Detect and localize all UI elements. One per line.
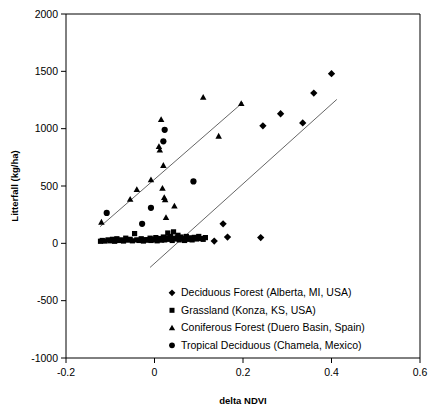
y-tick-label: 1500: [35, 65, 59, 77]
legend-label: Tropical Deciduous (Chamela, Mexico): [181, 339, 362, 351]
data-point-square: [130, 238, 135, 243]
y-tick-label: -500: [37, 294, 58, 306]
x-axis-ticks: -0.200.20.40.6: [57, 358, 427, 378]
x-tick-label: -0.2: [57, 366, 75, 378]
y-axis-ticks: 2000150010005000-500-1000: [31, 8, 66, 364]
data-point-diamond: [257, 234, 264, 241]
data-point-circle: [160, 138, 166, 144]
data-point-diamond: [277, 110, 284, 117]
data-point-square: [203, 235, 208, 240]
legend-label: Coniferous Forest (Duero Basin, Spain): [181, 321, 365, 333]
y-tick-label: 0: [52, 237, 58, 249]
x-axis-title: delta NDVI: [219, 395, 267, 406]
data-point-diamond: [219, 220, 226, 227]
x-tick-label: 0.6: [413, 366, 428, 378]
data-point-triangle: [215, 133, 222, 139]
data-point-diamond: [328, 70, 335, 77]
legend-label: Grassland (Konza, KS, USA): [181, 304, 316, 316]
y-tick-label: 1000: [35, 122, 59, 134]
data-point-triangle: [148, 176, 155, 182]
data-point-triangle: [200, 94, 207, 100]
legend-label: Deciduous Forest (Alberta, MI, USA): [181, 286, 351, 298]
data-point-diamond: [299, 119, 306, 126]
data-point-triangle: [158, 116, 165, 122]
x-tick-label: 0.2: [236, 366, 251, 378]
data-point-circle: [148, 205, 154, 211]
data-point-diamond: [224, 233, 231, 240]
data-point-triangle: [156, 143, 163, 149]
legend-marker-triangle: [169, 325, 175, 331]
data-points-group: [98, 70, 335, 245]
data-point-square: [132, 231, 137, 236]
data-point-triangle: [238, 100, 245, 106]
y-tick-label: 500: [40, 180, 58, 192]
data-point-triangle: [160, 162, 167, 168]
legend: Deciduous Forest (Alberta, MI, USA)Grass…: [169, 286, 365, 351]
data-point-square: [171, 229, 176, 234]
data-point-circle: [139, 221, 145, 227]
legend-marker-circle: [169, 342, 175, 348]
data-point-triangle: [134, 186, 141, 192]
data-point-circle: [104, 210, 110, 216]
series-1: [98, 229, 208, 244]
data-point-circle: [190, 178, 196, 184]
data-point-diamond: [211, 237, 218, 244]
x-tick-label: 0: [152, 366, 158, 378]
y-axis-title: Litterfall (kg/ha): [9, 150, 20, 221]
data-point-diamond: [259, 122, 266, 129]
series-2: [98, 94, 244, 239]
data-point-circle: [162, 127, 168, 133]
legend-marker-diamond: [169, 289, 176, 296]
litterfall-ndvi-scatter-chart: 2000150010005000-500-1000 -0.200.20.40.6…: [0, 0, 445, 412]
y-tick-label: 2000: [35, 8, 59, 20]
data-point-diamond: [310, 89, 317, 96]
plot-canvas: 2000150010005000-500-1000 -0.200.20.40.6…: [0, 0, 445, 412]
y-tick-label: -1000: [31, 352, 58, 364]
x-tick-label: 0.4: [324, 366, 339, 378]
data-point-triangle: [159, 185, 166, 191]
data-point-triangle: [163, 214, 170, 220]
data-point-triangle: [98, 219, 105, 225]
legend-marker-square: [170, 308, 175, 313]
data-point-triangle: [171, 203, 178, 209]
